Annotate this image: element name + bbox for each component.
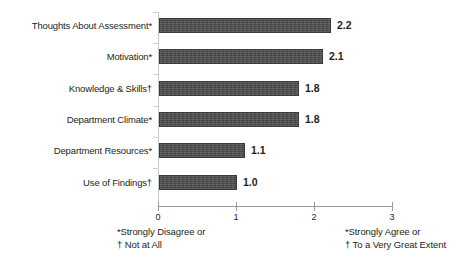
footnote-left: *Strongly Disagree or † Not at All [117,226,205,251]
x-axis-line [158,206,392,207]
bar-value-label: 1.1 [251,143,266,158]
bar-department-climate [159,112,299,127]
bar-row: Motivation* 2.1 [0,49,475,64]
y-axis-tick [153,74,158,75]
bar-row: Thoughts About Assessment* 2.2 [0,18,475,33]
category-label: Knowledge & Skills† [0,81,152,96]
bar-value-label: 1.8 [305,81,320,96]
x-axis-tick [158,202,159,211]
bar-thoughts-about-assessment [159,18,331,33]
y-axis-tick [153,168,158,169]
y-axis-tick [153,12,158,13]
x-axis-tick [236,202,237,211]
category-label: Use of Findings† [0,175,152,190]
x-axis-tick [314,202,315,211]
x-axis-tick-label: 1 [226,212,246,223]
category-label: Thoughts About Assessment* [0,18,152,33]
bar-value-label: 2.1 [329,49,344,64]
bar-row: Use of Findings† 1.0 [0,175,475,190]
bar-motivation [159,49,323,64]
bar-department-resources [159,143,245,158]
footnote-left-line-1: *Strongly Disagree or [117,226,205,239]
bar-use-of-findings [159,175,237,190]
x-axis-tick-label: 3 [382,212,402,223]
footnote-right-line-1: *Strongly Agree or [345,226,446,239]
bar-knowledge-and-skills [159,81,299,96]
bar-value-label: 1.0 [243,175,258,190]
category-label: Department Climate* [0,112,152,127]
y-axis-tick [153,137,158,138]
bar-row: Knowledge & Skills† 1.8 [0,81,475,96]
bar-row: Department Resources* 1.1 [0,143,475,158]
bar-value-label: 1.8 [305,112,320,127]
x-axis-tick-label: 0 [148,212,168,223]
y-axis-tick [153,106,158,107]
y-axis-tick [153,43,158,44]
x-axis-tick-label: 2 [304,212,324,223]
category-label: Motivation* [0,49,152,64]
footnote-left-line-2: † Not at All [117,239,205,252]
footnote-right-line-2: † To a Very Great Extent [345,239,446,252]
category-label: Department Resources* [0,143,152,158]
footnote-right: *Strongly Agree or † To a Very Great Ext… [345,226,446,251]
bar-chart: Thoughts About Assessment* 2.2 Motivatio… [0,0,475,266]
x-axis-tick [392,202,393,211]
bar-row: Department Climate* 1.8 [0,112,475,127]
bar-value-label: 2.2 [337,18,352,33]
